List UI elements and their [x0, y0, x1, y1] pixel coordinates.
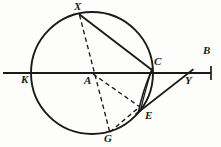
- point-label-a: A: [84, 75, 91, 86]
- point-label-k: K: [21, 74, 28, 85]
- point-label-b: B: [203, 45, 210, 56]
- point-label-e: E: [145, 110, 152, 121]
- chord-xc: [80, 15, 153, 71]
- radius-ae-dashed: [93, 74, 140, 107]
- point-label-c: C: [154, 56, 161, 67]
- point-label-g: G: [104, 133, 112, 144]
- chord-ge-dashed: [110, 107, 140, 133]
- point-label-y: Y: [185, 75, 192, 86]
- geometry-figure: X K A C B Y E G: [0, 0, 221, 147]
- point-label-x: X: [74, 1, 81, 12]
